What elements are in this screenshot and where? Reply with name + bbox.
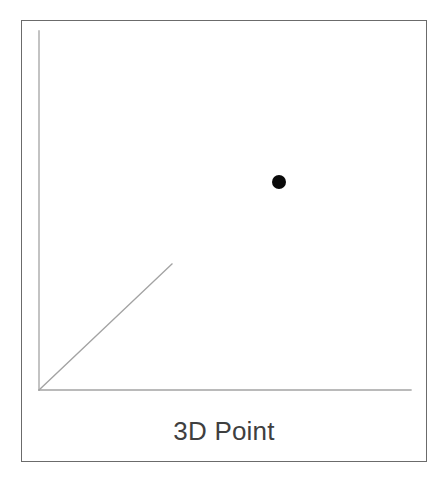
card-border xyxy=(21,20,427,462)
figure-caption: 3D Point xyxy=(30,415,418,447)
figure-root: 3D Point xyxy=(0,0,448,481)
